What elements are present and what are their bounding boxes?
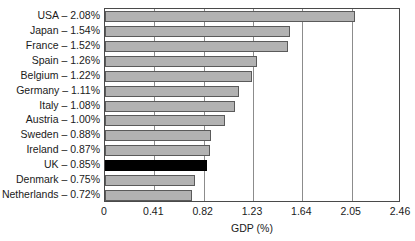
x-tick-label: 1.23 — [242, 205, 262, 217]
gdp-bar-chart: USA – 2.08%Japan – 1.54%France – 1.52%Sp… — [0, 0, 415, 241]
bar — [105, 145, 210, 156]
bar-row — [105, 84, 401, 99]
bars-container — [105, 9, 399, 201]
bar — [105, 190, 192, 201]
bar-row — [105, 143, 401, 158]
category-label: Netherlands – 0.72% — [0, 189, 100, 200]
category-label: Ireland – 0.87% — [0, 144, 100, 155]
bar — [105, 175, 195, 186]
x-tick-label: 2.05 — [340, 205, 360, 217]
bar — [105, 56, 257, 67]
category-label: France – 1.52% — [0, 40, 100, 51]
bar — [105, 26, 290, 37]
bar-row — [105, 173, 401, 188]
bar — [105, 71, 252, 82]
bar-row — [105, 113, 401, 128]
category-label: Italy – 1.08% — [0, 100, 100, 111]
bar — [105, 101, 235, 112]
bar — [105, 160, 207, 171]
bar-row — [105, 99, 401, 114]
bar-row — [105, 69, 401, 84]
category-label-list: USA – 2.08%Japan – 1.54%France – 1.52%Sp… — [0, 8, 100, 202]
category-label: USA – 2.08% — [0, 10, 100, 21]
category-label: Denmark – 0.75% — [0, 174, 100, 185]
bar-row — [105, 54, 401, 69]
bar — [105, 115, 225, 126]
x-tick-label: 2.46 — [390, 205, 410, 217]
category-label: Germany – 1.11% — [0, 85, 100, 96]
bar-row — [105, 128, 401, 143]
bar-row — [105, 39, 401, 54]
bar-row — [105, 188, 401, 203]
bar — [105, 86, 239, 97]
x-axis-tick-labels: 00.410.821.231.642.052.46 — [0, 205, 415, 219]
category-label: Austria – 1.00% — [0, 114, 100, 125]
x-tick-label: 0.82 — [192, 205, 212, 217]
plot-area — [104, 8, 400, 202]
bar — [105, 41, 288, 52]
x-axis-title: GDP (%) — [104, 222, 400, 234]
x-tick-label: 0.41 — [143, 205, 163, 217]
category-label: Belgium – 1.22% — [0, 70, 100, 81]
category-label: UK – 0.85% — [0, 159, 100, 170]
bar-row — [105, 9, 401, 24]
bar — [105, 130, 211, 141]
category-label: Sweden – 0.88% — [0, 129, 100, 140]
bar-row — [105, 158, 401, 173]
bar — [105, 11, 355, 22]
category-label: Spain – 1.26% — [0, 55, 100, 66]
x-tick-label: 1.64 — [291, 205, 311, 217]
bar-row — [105, 24, 401, 39]
category-label: Japan – 1.54% — [0, 25, 100, 36]
x-tick-label: 0 — [101, 205, 107, 217]
